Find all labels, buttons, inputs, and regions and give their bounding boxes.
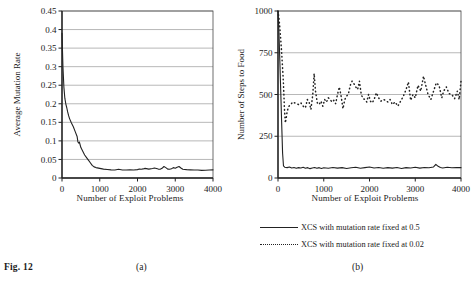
chart-panel-a: 00.050.10.150.20.250.30.350.40.450100020… <box>0 0 232 192</box>
svg-text:0.05: 0.05 <box>41 155 57 165</box>
panel-b-label: (b) <box>352 262 363 272</box>
svg-text:0.4: 0.4 <box>45 25 57 35</box>
svg-text:0.1: 0.1 <box>45 136 56 146</box>
svg-text:750: 750 <box>259 48 273 58</box>
svg-text:0.25: 0.25 <box>41 80 57 90</box>
chart-b-svg: 0250500750100001000200030004000Number of… <box>232 0 473 192</box>
svg-text:0.3: 0.3 <box>45 62 57 72</box>
chart-panel-b: 0250500750100001000200030004000Number of… <box>232 0 473 192</box>
svg-text:4000: 4000 <box>452 184 471 193</box>
svg-text:3000: 3000 <box>406 184 425 193</box>
svg-text:4000: 4000 <box>204 184 223 193</box>
svg-text:Number of Steps to Food: Number of Steps to Food <box>236 49 246 140</box>
svg-text:0: 0 <box>276 184 281 193</box>
legend-item-solid: XCS with mutation rate fixed at 0.5 <box>258 219 473 236</box>
svg-text:Average Mutation Rate: Average Mutation Rate <box>12 53 22 137</box>
svg-text:2000: 2000 <box>129 184 148 193</box>
legend-item-dotted-label: XCS with mutation rate fixed at 0.02 <box>301 240 424 250</box>
svg-text:250: 250 <box>259 131 273 141</box>
svg-text:1000: 1000 <box>91 184 110 193</box>
svg-text:1000: 1000 <box>255 6 274 16</box>
figure-caption-label: Fig. 12 <box>4 262 33 272</box>
legend-dotted-line-swatch <box>258 240 298 249</box>
legend-solid-line-swatch <box>258 223 298 232</box>
svg-text:1000: 1000 <box>315 184 334 193</box>
svg-text:0: 0 <box>268 173 273 183</box>
svg-text:0.45: 0.45 <box>41 6 57 16</box>
panel-a-label: (a) <box>136 262 147 272</box>
svg-text:0.35: 0.35 <box>41 43 57 53</box>
svg-text:3000: 3000 <box>166 184 185 193</box>
legend-item-solid-label: XCS with mutation rate fixed at 0.5 <box>301 223 420 233</box>
chart-a-xaxis-title: Number of Exploit Problems <box>40 193 220 203</box>
chart-legend: XCS with mutation rate fixed at 0.5 XCS … <box>258 219 473 253</box>
svg-text:0: 0 <box>60 184 65 193</box>
svg-text:0.2: 0.2 <box>45 99 56 109</box>
chart-a-svg: 00.050.10.150.20.250.30.350.40.450100020… <box>0 0 232 192</box>
svg-text:2000: 2000 <box>361 184 380 193</box>
svg-text:0: 0 <box>52 173 57 183</box>
figure-container: 00.050.10.150.20.250.30.350.40.450100020… <box>0 0 473 294</box>
chart-b-xaxis-title: Number of Exploit Problems <box>270 193 460 203</box>
legend-item-dotted: XCS with mutation rate fixed at 0.02 <box>258 236 473 253</box>
svg-text:0.15: 0.15 <box>41 117 57 127</box>
svg-text:500: 500 <box>259 90 273 100</box>
